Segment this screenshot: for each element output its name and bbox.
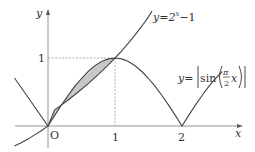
sine-label-prefix: y= [177, 72, 193, 85]
origin-label: O [50, 129, 59, 142]
paren-left [220, 66, 223, 88]
y-axis-arrow-icon [46, 9, 50, 15]
sine-label-var: x [231, 72, 238, 85]
y-axis-label: y [35, 7, 43, 20]
x-tick-2: 2 [178, 131, 185, 144]
exponential-curve-label: y=2x−1 [152, 10, 196, 24]
exp-label-tail: −1 [179, 11, 195, 24]
abs-sine-curve-label: y= sin π 2 x [177, 66, 245, 88]
exp-label-base: y=2 [152, 11, 175, 24]
graph-canvas: y 1 O 1 2 x y=2x−1 y= sin π 2 x [0, 0, 255, 152]
paren-right [239, 66, 242, 88]
y-tick-1: 1 [38, 52, 45, 65]
exponential-curve [15, 6, 142, 147]
x-axis-label: x [235, 127, 242, 140]
sine-label-func: sin [200, 72, 216, 85]
sine-frac-den: 2 [224, 79, 229, 88]
graph-figure: y 1 O 1 2 x y=2x−1 y= sin π 2 x [0, 0, 255, 152]
abs-sine-curve-line [15, 58, 223, 126]
x-tick-1: 1 [112, 131, 119, 144]
sine-frac-num: π [222, 68, 229, 77]
